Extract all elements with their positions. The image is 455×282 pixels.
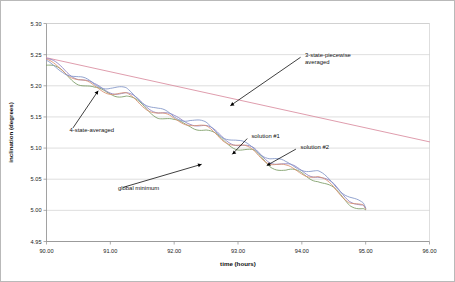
ann-global-minimum-arrowhead <box>198 163 202 167</box>
x-axis-title: time (hours) <box>220 260 256 267</box>
x-tick-label: 92.00 <box>167 248 181 254</box>
chart-figure: 3-state-piecewiseaveraged4-state-average… <box>0 0 455 282</box>
y-tickmarks-group <box>44 24 47 242</box>
ann-3-state-leader <box>230 57 300 105</box>
x-tick-label: 94.00 <box>295 248 309 254</box>
series-4-state-averaged <box>47 65 366 210</box>
y-axis-title: inclination (degrees) <box>7 102 14 163</box>
ann-solution-1-label: solution #1 <box>251 133 280 139</box>
ann-3-state-line: 3-state-piecewise <box>305 52 352 58</box>
ann-4-state-arrowhead <box>95 91 99 95</box>
series-global-minimum <box>47 60 366 208</box>
ann-solution-2-label: solution #2 <box>301 144 330 150</box>
data-series-group <box>47 58 430 210</box>
ann-global-minimum-line: global minimum <box>118 185 159 191</box>
y-tick-label: 5.20 <box>31 83 42 89</box>
ann-4-state-leader <box>73 91 98 128</box>
y-tick-label: 5.00 <box>31 207 42 213</box>
x-tick-labels-group: 90.0091.0092.0093.0094.0095.0096.00 <box>40 248 437 254</box>
inclination-vs-time-chart: 3-state-piecewiseaveraged4-state-average… <box>1 1 455 282</box>
ann-global-minimum-label: global minimum <box>118 185 159 191</box>
ann-3-state-line: averaged <box>305 59 330 65</box>
ann-4-state-line: 4-state-averaged <box>69 127 114 133</box>
series-solution-2 <box>47 59 366 209</box>
y-tick-label: 4.95 <box>31 239 42 245</box>
x-tick-label: 96.00 <box>423 248 437 254</box>
ann-4-state-label: 4-state-averaged <box>69 127 114 133</box>
x-tick-label: 93.00 <box>231 248 245 254</box>
x-tickmarks-group <box>47 242 430 245</box>
ann-global-minimum-leader <box>123 164 202 187</box>
x-tick-label: 91.00 <box>103 248 117 254</box>
y-tick-label: 5.30 <box>31 21 42 27</box>
ann-solution-1-line: solution #1 <box>251 133 280 139</box>
series-solution-1 <box>47 59 366 209</box>
y-tick-labels-group: 4.955.005.055.105.155.205.255.30 <box>31 21 42 245</box>
annotations-group: 3-state-piecewiseaveraged4-state-average… <box>69 52 351 191</box>
ann-3-state-label: 3-state-piecewiseaveraged <box>305 52 352 65</box>
y-tick-label: 5.15 <box>31 114 42 120</box>
y-tick-label: 5.25 <box>31 52 42 58</box>
ann-solution-2-leader <box>267 149 296 165</box>
ann-solution-2-line: solution #2 <box>301 144 330 150</box>
x-tick-label: 90.00 <box>40 248 54 254</box>
ann-3-state-arrowhead <box>230 102 234 106</box>
y-tick-label: 5.10 <box>31 145 42 151</box>
x-tick-label: 95.00 <box>359 248 373 254</box>
y-tick-label: 5.05 <box>31 176 42 182</box>
